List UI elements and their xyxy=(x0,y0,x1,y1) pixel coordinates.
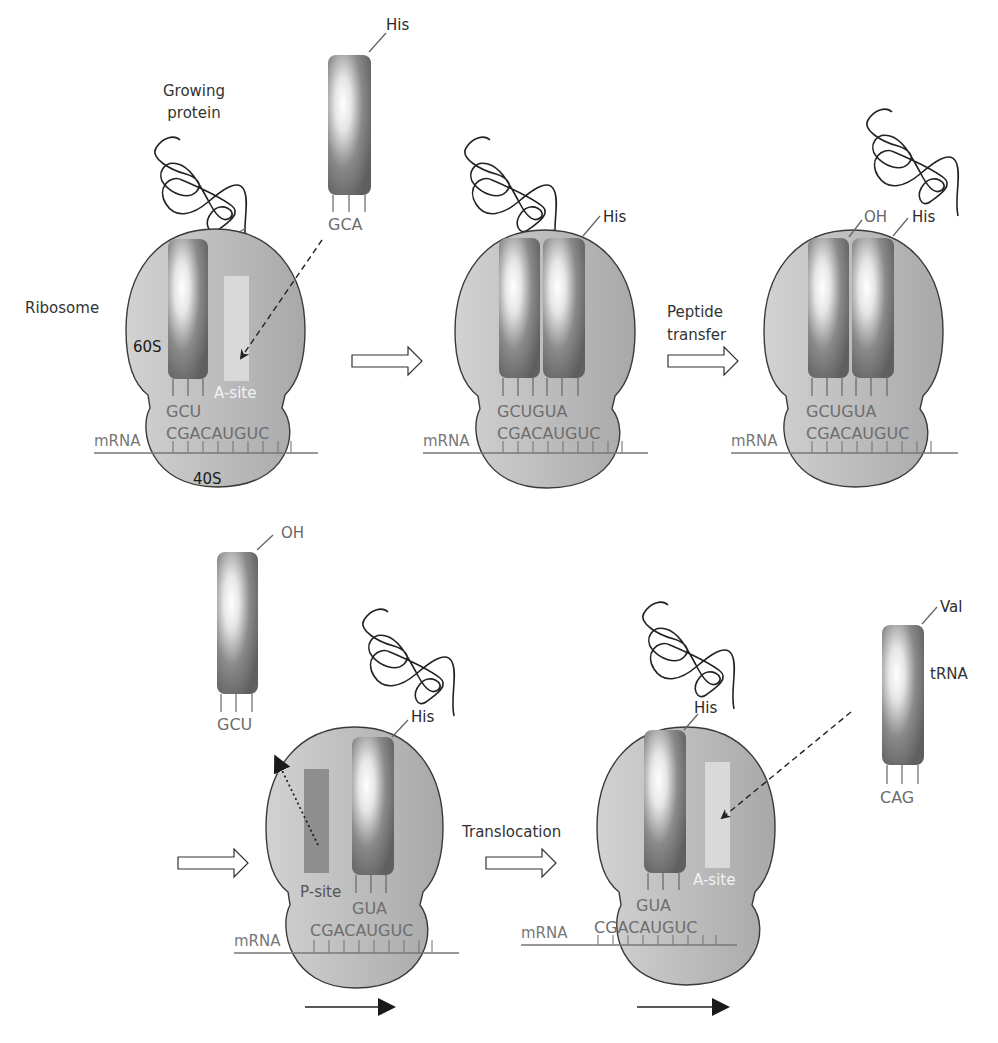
mrna-codons: CGACAUGUC xyxy=(806,424,909,443)
amino-acid-his: His xyxy=(694,699,717,717)
trna-val-incoming xyxy=(882,625,924,765)
trna-p-site xyxy=(499,238,540,378)
amino-acid-link xyxy=(893,218,908,236)
trna-anticodon-stems xyxy=(887,765,918,784)
trna-p-site-peptidyl xyxy=(644,730,686,873)
trna-label: tRNA xyxy=(930,665,969,683)
step-1: Growing protein Ribosome 60S 40S A-site … xyxy=(25,16,409,488)
anticodon-pair: GCUGUA xyxy=(806,402,876,421)
mrna-codons: CGACAUGUC xyxy=(594,918,697,937)
step-arrow-peptide-transfer xyxy=(668,347,738,375)
amino-acid-his: His xyxy=(386,16,409,34)
trna-anticodon-stems xyxy=(333,195,365,212)
growing-protein-chain xyxy=(363,609,454,716)
anticodon-gua: GUA xyxy=(352,899,387,918)
a-site-label: A-site xyxy=(693,871,735,889)
amino-acid-link xyxy=(369,33,386,52)
translation-diagram: Growing protein Ribosome 60S 40S A-site … xyxy=(0,0,998,1043)
mrna-codons: CGACAUGUC xyxy=(310,921,413,940)
amino-acid-val: Val xyxy=(940,598,962,616)
anticodon-gcu: GCU xyxy=(166,402,201,421)
mrna-label: mRNA xyxy=(423,432,470,450)
amino-acid-his: His xyxy=(411,708,434,726)
amino-acid-his: His xyxy=(603,208,626,226)
trna-anticodon-stems xyxy=(221,694,252,712)
amino-acid-link xyxy=(922,607,937,624)
translocation-label: Translocation xyxy=(461,823,561,841)
growing-protein-label-2: protein xyxy=(167,104,220,122)
step-arrow-translocation xyxy=(486,849,556,877)
oh-label: OH xyxy=(864,208,887,226)
anticodon-gcu: GCU xyxy=(217,715,252,734)
trna-departing xyxy=(217,552,258,694)
mrna-label: mRNA xyxy=(731,432,778,450)
trna-a-site-peptidyl xyxy=(852,238,894,378)
peptide-transfer-label-2: transfer xyxy=(667,326,727,344)
anticodon-gca: GCA xyxy=(328,215,363,234)
oh-label: OH xyxy=(281,524,304,542)
trna-his-incoming xyxy=(328,55,371,195)
peptide-transfer-label: Peptide xyxy=(667,303,723,321)
small-subunit-label: 40S xyxy=(193,470,222,488)
mrna-codons: CGACAUGUC xyxy=(166,424,269,443)
mrna-label: mRNA xyxy=(521,924,568,942)
a-site-box xyxy=(224,276,249,381)
step-arrow-3 xyxy=(178,849,248,877)
growing-protein-chain xyxy=(643,602,734,709)
large-subunit-label: 60S xyxy=(133,338,162,356)
p-site-label: P-site xyxy=(300,883,341,901)
step-arrow-1 xyxy=(352,347,422,375)
oh-link xyxy=(257,535,273,550)
anticodon-gua: GUA xyxy=(636,896,671,915)
ribosome-label: Ribosome xyxy=(25,299,99,317)
mrna-codons: CGACAUGUC xyxy=(497,424,600,443)
step-3: OH His GCUGUA CGACAUGUC mRNA xyxy=(731,109,958,487)
step-2: His GCUGUA CGACAUGUC mRNA xyxy=(423,137,648,488)
step-5: His A-site GUA CGACAUGUC mRNA Val tRNA C… xyxy=(521,598,969,1007)
amino-acid-link xyxy=(583,216,600,236)
growing-protein-chain xyxy=(867,109,958,216)
mrna-label: mRNA xyxy=(94,432,141,450)
amino-acid-link xyxy=(392,720,408,737)
p-site-box xyxy=(304,769,329,873)
growing-protein-label: Growing xyxy=(163,82,225,100)
trna-a-site-his xyxy=(543,238,585,378)
growing-protein-chain xyxy=(465,137,556,244)
trna-p-site xyxy=(168,239,208,379)
trna-p-site-peptidyl xyxy=(352,737,394,875)
amino-acid-his: His xyxy=(912,208,935,226)
trna-p-site-deacylated xyxy=(808,238,849,378)
a-site-label: A-site xyxy=(214,384,256,402)
anticodon-pair: GCUGUA xyxy=(497,402,567,421)
step-4: OH GCU P-site His GUA CGACAUGUC mRNA xyxy=(217,524,459,1007)
mrna-label: mRNA xyxy=(234,932,281,950)
growing-protein-chain xyxy=(155,137,246,244)
anticodon-cag: CAG xyxy=(880,788,914,807)
